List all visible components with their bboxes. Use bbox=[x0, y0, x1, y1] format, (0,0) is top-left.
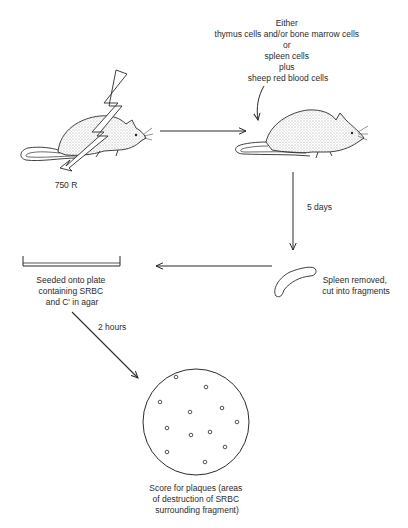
spleen-label-line: Spleen removed, bbox=[323, 275, 387, 285]
petri-dish bbox=[143, 369, 249, 475]
injection-arrow bbox=[257, 86, 264, 120]
injection-label-line: spleen cells bbox=[265, 51, 309, 61]
dish-label-line: surrounding fragment) bbox=[155, 505, 239, 515]
plate-label-line: and C' in agar bbox=[46, 297, 99, 307]
injection-label-line: Either bbox=[276, 18, 298, 28]
agar-plate bbox=[23, 256, 120, 266]
dish-label: Score for plaques (areas of destruction … bbox=[149, 483, 244, 515]
dish-label-line: Score for plaques (areas bbox=[149, 483, 242, 493]
spleen-label-line: cut into fragments bbox=[322, 286, 390, 296]
plate-label: Seeded onto plate containing SRBC and C'… bbox=[36, 275, 107, 307]
injection-label: Either thymus cells and/or bone marrow c… bbox=[215, 18, 362, 83]
diagram-canvas: 750 R 5 days 2 hours Either thymus cell bbox=[0, 0, 408, 528]
injection-label-line: plus bbox=[279, 62, 295, 72]
dish-label-line: of destruction of SRBC bbox=[153, 494, 239, 504]
injection-label-line: thymus cells and/or bone marrow cells bbox=[215, 29, 360, 39]
injected-mouse bbox=[236, 86, 368, 158]
mouse-icon bbox=[236, 110, 368, 158]
spleen-label: Spleen removed, cut into fragments bbox=[322, 275, 390, 296]
spleen-fragment-icon bbox=[275, 267, 316, 297]
arrow-label-5-days: 5 days bbox=[307, 202, 332, 212]
plate-label-line: Seeded onto plate bbox=[36, 275, 105, 285]
petri-dish-outline bbox=[143, 369, 249, 475]
dose-label: 750 R bbox=[55, 180, 78, 190]
irradiated-mouse bbox=[21, 70, 153, 171]
arrow-label-2-hours: 2 hours bbox=[98, 322, 126, 332]
injection-label-line: sheep red blood cells bbox=[248, 73, 328, 83]
injection-label-line: or bbox=[283, 40, 291, 50]
plate-label-line: containing SRBC bbox=[38, 286, 103, 296]
